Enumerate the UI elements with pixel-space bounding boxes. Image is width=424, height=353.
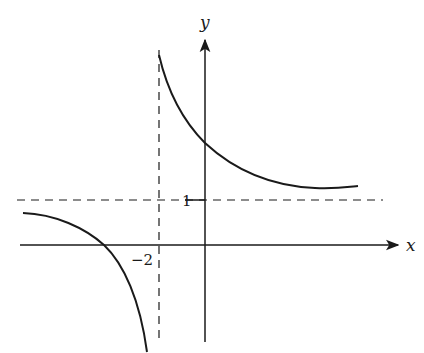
horizontal-asymptote-label: 1 xyxy=(182,192,192,210)
vertical-asymptote-label: −2 xyxy=(131,251,153,269)
x-axis-label: x xyxy=(406,235,416,255)
right-branch-curve xyxy=(159,55,358,188)
function-graph: y x 1 −2 xyxy=(0,0,424,353)
y-axis-label: y xyxy=(199,12,210,32)
left-branch-curve xyxy=(23,213,147,352)
